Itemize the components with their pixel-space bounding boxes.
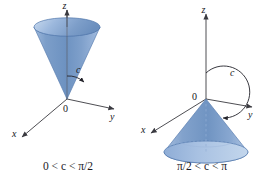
left-origin-label: 0: [63, 103, 68, 114]
right-angle-label: c: [230, 67, 235, 78]
left-panel-group: z y x 0 c: [11, 0, 115, 139]
right-origin-label: 0: [192, 91, 197, 102]
left-angle-label: c: [76, 64, 81, 75]
figure-root: z y x 0 c z: [0, 0, 271, 188]
right-z-axis-label: z: [201, 4, 206, 15]
left-y-axis-label: y: [109, 111, 115, 122]
right-y-axis: [206, 99, 252, 107]
right-y-axis-label: y: [247, 109, 253, 120]
left-caption: 0 < c < π/2: [8, 160, 128, 172]
right-caption: π/2 < c < π: [140, 160, 264, 172]
left-x-axis-label: x: [11, 128, 17, 139]
left-x-axis: [22, 99, 67, 137]
right-x-axis-label: x: [140, 124, 146, 135]
left-y-axis: [67, 99, 114, 109]
left-z-axis-label: z: [62, 0, 67, 11]
right-panel-group: z y x 0 c: [140, 4, 253, 163]
